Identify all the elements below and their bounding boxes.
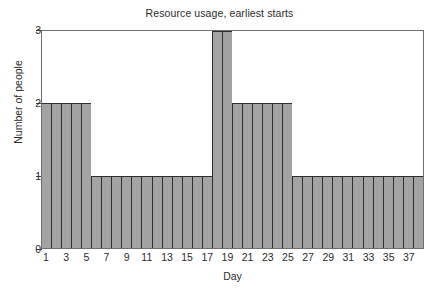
bar <box>272 103 282 248</box>
x-tick-slot <box>51 250 61 268</box>
bar <box>342 176 352 248</box>
plot-area <box>41 30 424 249</box>
x-tick-slot: 1 <box>41 250 51 268</box>
x-tick-label: 5 <box>83 251 89 263</box>
x-tick-slot: 7 <box>101 250 111 268</box>
bar <box>152 176 162 248</box>
bar <box>81 103 91 248</box>
y-tick-label: 1 <box>13 170 41 182</box>
y-tick-label: 0 <box>13 243 41 255</box>
bar <box>322 176 332 248</box>
bar <box>101 176 111 248</box>
x-tick-slot <box>91 250 101 268</box>
bar <box>222 31 232 248</box>
x-tick-slot: 5 <box>81 250 91 268</box>
bar <box>292 176 302 248</box>
x-tick-slot: 17 <box>202 250 212 268</box>
bar <box>312 176 322 248</box>
bar <box>91 176 101 248</box>
x-axis-ticks: 135791113151719212325272931333537 <box>41 250 424 268</box>
y-axis: Number of people 0123 <box>0 0 41 293</box>
x-tick-slot <box>71 250 81 268</box>
x-axis-title: Day <box>41 270 424 282</box>
bar <box>373 176 383 248</box>
x-tick-slot: 23 <box>263 250 273 268</box>
bar <box>192 176 202 248</box>
bar <box>393 176 403 248</box>
x-tick-slot <box>414 250 424 268</box>
x-tick-slot: 15 <box>182 250 192 268</box>
bar <box>403 176 413 248</box>
bar <box>413 176 423 248</box>
bar <box>42 103 51 248</box>
bar <box>352 176 362 248</box>
x-tick-slot: 11 <box>142 250 152 268</box>
chart-title: Resource usage, earliest starts <box>0 7 439 19</box>
bar <box>252 103 262 248</box>
bar <box>71 103 81 248</box>
bar <box>202 176 212 248</box>
x-tick-label: 9 <box>124 251 130 263</box>
x-tick-slot: 21 <box>243 250 253 268</box>
bar <box>363 176 373 248</box>
bar <box>172 176 182 248</box>
x-tick-label: 11 <box>141 251 152 263</box>
bar <box>51 103 61 248</box>
x-tick-slot: 9 <box>122 250 132 268</box>
bar <box>282 103 292 248</box>
bar <box>121 176 131 248</box>
y-tick-label: 3 <box>13 24 41 36</box>
x-tick-slot: 33 <box>364 250 374 268</box>
x-tick-slot: 3 <box>61 250 71 268</box>
x-tick-label: 7 <box>104 251 110 263</box>
bar <box>332 176 342 248</box>
bar <box>61 103 71 248</box>
bar <box>212 31 222 248</box>
bar <box>262 103 272 248</box>
bar <box>182 176 192 248</box>
resource-usage-chart: Resource usage, earliest starts Number o… <box>0 0 439 293</box>
bar <box>232 103 242 248</box>
bars-layer <box>42 31 423 248</box>
x-tick-slot: 27 <box>303 250 313 268</box>
x-tick-label: 3 <box>63 251 69 263</box>
x-tick-slot <box>132 250 142 268</box>
x-tick-slot <box>112 250 122 268</box>
x-tick-slot: 31 <box>343 250 353 268</box>
bar <box>131 176 141 248</box>
x-tick-slot: 25 <box>283 250 293 268</box>
y-tick-label: 2 <box>13 97 41 109</box>
x-tick-slot: 13 <box>162 250 172 268</box>
bar <box>111 176 121 248</box>
x-tick-slot: 19 <box>222 250 232 268</box>
x-tick-slot: 29 <box>323 250 333 268</box>
bar <box>141 176 151 248</box>
bar <box>162 176 172 248</box>
bar <box>383 176 393 248</box>
x-tick-label: 1 <box>43 251 49 263</box>
bar <box>242 103 252 248</box>
bar <box>302 176 312 248</box>
x-tick-slot: 35 <box>384 250 394 268</box>
x-tick-slot: 37 <box>404 250 414 268</box>
